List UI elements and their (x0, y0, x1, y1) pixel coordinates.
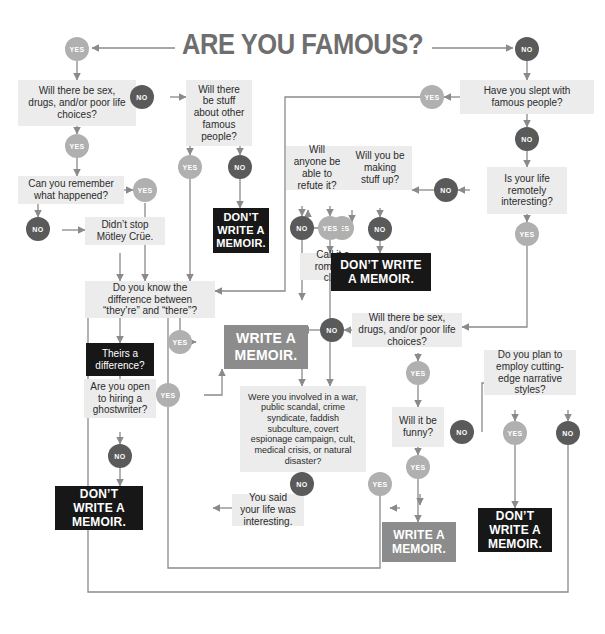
pill-no-famous[interactable]: NO (515, 37, 539, 61)
pill-no-remotely-interesting[interactable]: NO (434, 178, 458, 202)
verdict-write-memoir-1[interactable]: WRITE A MEMOIR. (224, 325, 308, 369)
question-can-you-remember[interactable]: Can you remember what happened? (18, 176, 124, 204)
question-sex-drugs-1[interactable]: Will there be sex, drugs, and/or poor li… (18, 80, 136, 126)
pill-yes-sex-drugs-1[interactable]: YES (65, 134, 89, 158)
pill-yes-cutting-edge[interactable]: YES (503, 421, 527, 445)
statement-motley-crue[interactable]: Didn’t stop Mötley Crüe. (85, 217, 165, 245)
question-theyre-there[interactable]: Do you know the difference between “they… (85, 281, 215, 318)
pill-yes-funny[interactable]: YES (406, 455, 430, 479)
pill-no-were-you-involved[interactable]: NO (290, 472, 314, 496)
pill-no-making-stuff-up[interactable]: NO (368, 217, 392, 241)
question-cutting-edge-styles[interactable]: Do you plan to employ cutting-edge narra… (484, 350, 576, 395)
verdict-write-memoir-2[interactable]: WRITE A MEMOIR. (382, 522, 456, 562)
question-were-you-involved[interactable]: Were you involved in a war, public scand… (240, 386, 366, 472)
pill-no-other-famous[interactable]: NO (228, 155, 252, 179)
pill-yes-slept-famous[interactable]: YES (420, 85, 444, 109)
question-other-famous-people[interactable]: Will there be stuff about other famous p… (186, 80, 252, 146)
pill-yes-theyre-there[interactable]: YES (168, 330, 192, 354)
pill-yes-remember[interactable]: YES (133, 178, 157, 202)
pill-yes-sex-drugs-2[interactable]: YES (406, 361, 430, 385)
pill-no-refute[interactable]: NO (290, 216, 314, 240)
page-title: ARE YOU FAMOUS? (36, 28, 568, 61)
pill-no-remember[interactable]: NO (26, 217, 50, 241)
pill-no-slept-famous[interactable]: NO (515, 127, 539, 151)
statement-you-said-interesting[interactable]: You said your life was interesting. (232, 494, 304, 526)
question-sex-drugs-2[interactable]: Will there be sex, drugs, and/or poor li… (352, 313, 462, 347)
question-making-stuff-up[interactable]: Will you be making stuff up? (348, 146, 412, 190)
verdict-dont-write-1[interactable]: DON’T WRITE A MEMOIR. (213, 208, 269, 253)
flowchart-canvas: ARE YOU FAMOUS? other famous --> right -… (0, 0, 605, 634)
verdict-dont-write-2[interactable]: DON’T WRITE A MEMOIR. (331, 253, 431, 291)
question-slept-with-famous[interactable]: Have you slept with famous people? (460, 80, 594, 114)
question-will-it-be-funny[interactable]: Will it be funny? (392, 407, 444, 447)
question-ghostwriter[interactable]: Are you open to hiring a ghostwriter? (84, 379, 156, 418)
pill-yes-other-famous[interactable]: YES (178, 155, 202, 179)
pill-yes-were-you-involved[interactable]: YES (368, 472, 392, 496)
plaque-theirs-a-difference[interactable]: Theirs a difference? (86, 343, 154, 376)
pill-yes-ghostwriter[interactable]: YES (156, 383, 180, 407)
question-remotely-interesting[interactable]: Is your life remotely interesting? (487, 167, 567, 214)
pill-no-sex-drugs-1[interactable]: NO (130, 85, 154, 109)
question-anyone-refute[interactable]: Will anyone be able to refute it? (286, 146, 348, 190)
pill-no-sex-drugs-2[interactable]: NO (320, 318, 344, 342)
pill-no-cutting-edge[interactable]: NO (556, 421, 580, 445)
pill-no-funny[interactable]: NO (450, 420, 474, 444)
pill-yes-famous[interactable]: YES (65, 37, 89, 61)
pill-yes-remotely-interesting[interactable]: YES (515, 222, 539, 246)
verdict-dont-write-3[interactable]: DON’T WRITE A MEMOIR. (55, 486, 143, 530)
verdict-dont-write-4[interactable]: DON’T WRITE A MEMOIR. (478, 508, 552, 552)
pill-yes-refute[interactable]: YES (318, 216, 342, 240)
pill-no-ghostwriter[interactable]: NO (108, 444, 132, 468)
